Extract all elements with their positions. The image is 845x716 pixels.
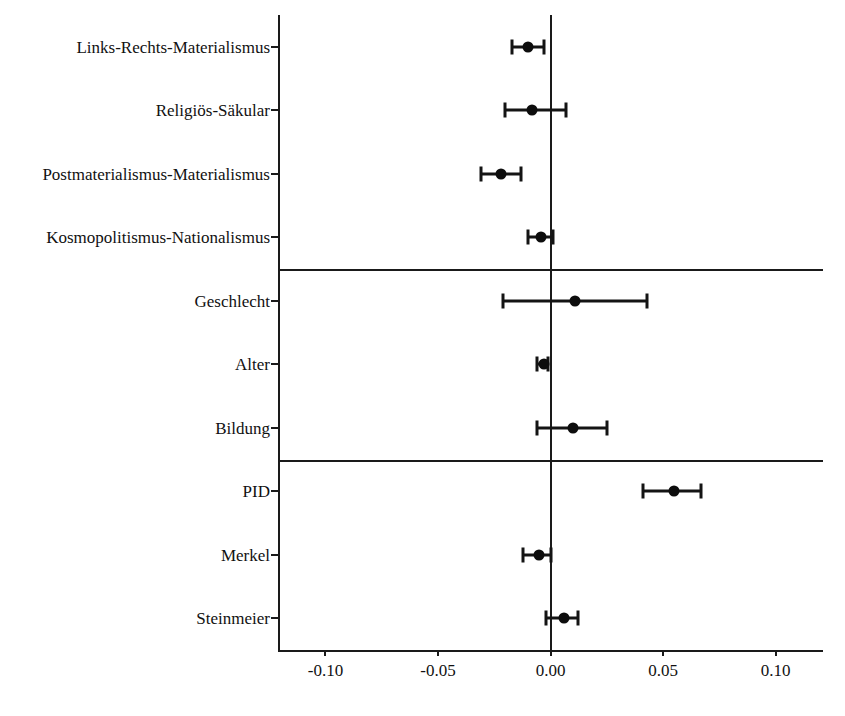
confidence-interval-cap-low [522,547,525,562]
confidence-interval-cap-low [511,39,514,54]
confidence-interval-cap-high [520,166,523,181]
point-estimate-marker [559,613,570,624]
x-axis-tick-label: -0.10 [308,662,343,679]
y-axis-tick [271,554,278,556]
y-axis-tick-label: Postmaterialismus-Materialismus [42,165,270,182]
y-axis-tick-label: Steinmeier [196,610,270,627]
x-axis-tick-label: 0.05 [648,662,678,679]
x-axis-tick [437,650,439,656]
point-estimate-marker [495,168,506,179]
point-estimate-marker [522,41,533,52]
y-axis-tick [271,236,278,238]
point-estimate-marker [534,549,545,560]
y-axis-tick [271,363,278,365]
y-axis-tick-label: PID [243,483,270,500]
x-axis-tick-label: 0.00 [536,662,566,679]
confidence-interval-cap-low [535,420,538,435]
point-estimate-marker [527,105,538,116]
y-axis-tick-label: Religiös-Säkular [156,102,270,119]
confidence-interval-cap-high [576,611,579,626]
x-axis-tick [662,650,664,656]
y-axis-tick-label: Links-Rechts-Materialismus [76,38,270,55]
y-axis-tick-label: Kosmopolitismus-Nationalismus [46,229,270,246]
confidence-interval-cap-low [504,103,507,118]
y-axis-tick-label: Alter [235,356,270,373]
y-axis-tick [271,490,278,492]
confidence-interval-cap-high [542,39,545,54]
y-axis-tick [271,617,278,619]
confidence-interval-cap-high [565,103,568,118]
y-axis-tick [271,46,278,48]
x-axis-tick [324,650,326,656]
y-axis-tick [271,173,278,175]
point-estimate-marker [570,295,581,306]
y-axis-tick-label: Geschlecht [194,292,270,309]
group-separator-line [278,460,823,462]
confidence-interval-cap-high [551,230,554,245]
y-axis-tick-label: Merkel [221,546,270,563]
y-axis-tick-label: Bildung [215,419,270,436]
group-separator-line [278,269,823,271]
y-axis-tick [271,300,278,302]
confidence-interval-cap-low [641,484,644,499]
confidence-interval-cap-high [700,484,703,499]
coefficient-plot: -0.10-0.050.000.050.10Links-Rechts-Mater… [0,0,845,716]
point-estimate-marker [669,486,680,497]
point-estimate-marker [536,232,547,243]
confidence-interval-cap-high [605,420,608,435]
point-estimate-marker [568,422,579,433]
confidence-interval-cap-high [646,293,649,308]
y-axis-tick [271,427,278,429]
x-axis-tick [775,650,777,656]
confidence-interval-cap-low [502,293,505,308]
x-axis-tick-label: 0.10 [761,662,791,679]
confidence-interval-cap-low [526,230,529,245]
confidence-interval-cap-high [549,547,552,562]
x-axis-tick-label: -0.05 [420,662,455,679]
point-estimate-marker [538,359,549,370]
confidence-interval-cap-low [544,611,547,626]
confidence-interval-cap-low [479,166,482,181]
y-axis-tick [271,109,278,111]
y-axis-spine [278,15,280,652]
x-axis-tick [550,650,552,656]
